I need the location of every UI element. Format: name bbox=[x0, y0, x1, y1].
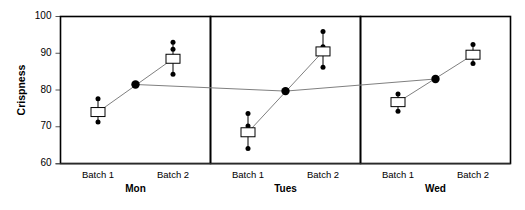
data-point bbox=[471, 61, 476, 66]
data-point bbox=[246, 146, 251, 151]
batch-axis-label: Batch 2 bbox=[157, 169, 189, 180]
batch-axis-label: Batch 2 bbox=[457, 169, 489, 180]
batch-axis-label: Batch 1 bbox=[382, 169, 414, 180]
data-point bbox=[96, 119, 101, 124]
day-axis-label: Wed bbox=[425, 183, 446, 194]
y-axis-tick-label: 60 bbox=[40, 157, 52, 168]
y-axis-tick-label: 100 bbox=[35, 10, 52, 21]
data-point bbox=[171, 72, 176, 77]
day-mean-point bbox=[431, 75, 439, 83]
day-axis-label: Mon bbox=[125, 183, 146, 194]
chart-canvas: Crispness60708090100Batch 1Batch 2MonBat… bbox=[0, 0, 525, 210]
group-mean-marker bbox=[466, 50, 480, 59]
panel-frame bbox=[361, 17, 511, 164]
y-axis-tick-label: 80 bbox=[40, 84, 52, 95]
y-axis-tick-label: 70 bbox=[40, 120, 52, 131]
group-mean-marker bbox=[166, 54, 180, 63]
data-point bbox=[396, 109, 401, 114]
group-mean-marker bbox=[391, 98, 405, 107]
data-point bbox=[321, 65, 326, 70]
day-axis-label: Tues bbox=[274, 183, 297, 194]
data-point bbox=[96, 96, 101, 101]
data-point bbox=[246, 111, 251, 116]
batch-axis-label: Batch 1 bbox=[82, 169, 114, 180]
data-point bbox=[321, 29, 326, 34]
data-point bbox=[171, 40, 176, 45]
data-point bbox=[471, 42, 476, 47]
batch-axis-label: Batch 2 bbox=[307, 169, 339, 180]
day-mean-point bbox=[281, 87, 289, 95]
group-mean-marker bbox=[241, 128, 255, 137]
day-mean-point bbox=[131, 80, 139, 88]
y-axis-tick-label: 90 bbox=[40, 47, 52, 58]
batch-axis-label: Batch 1 bbox=[232, 169, 264, 180]
y-axis-title: Crispness bbox=[15, 64, 27, 115]
panel-frame bbox=[61, 17, 211, 164]
group-mean-marker bbox=[91, 108, 105, 117]
variability-chart: Crispness60708090100Batch 1Batch 2MonBat… bbox=[0, 0, 525, 210]
data-point bbox=[396, 92, 401, 97]
data-point bbox=[171, 47, 176, 52]
group-mean-marker bbox=[316, 47, 330, 56]
